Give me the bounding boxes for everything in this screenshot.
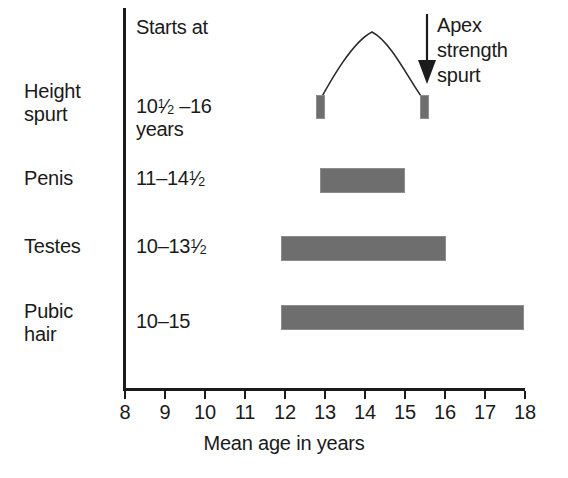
annotation-line-1: Apex [437, 14, 482, 36]
x-axis-tick-14 [364, 391, 366, 399]
bar-penis [320, 168, 405, 193]
apex-strength-spurt-annotation: Apex strength spurt [437, 13, 508, 88]
starts-at-testes-range: 10–131⁄2 [136, 235, 206, 257]
bar-pubic-hair [281, 305, 524, 330]
starts-at-testes: 10–131⁄2 [136, 235, 256, 258]
annotation-line-2: strength [437, 39, 508, 61]
row-label-height-spurt: Height spurt [24, 80, 120, 126]
x-axis-tick-8 [124, 391, 126, 399]
height-spurt-end-marker [420, 95, 429, 119]
x-axis-tick-label-17: 17 [465, 400, 505, 424]
x-axis-tick-15 [404, 391, 406, 399]
starts-at-height-spurt: 101⁄2 –16 years [136, 95, 256, 141]
row-label-penis: Penis [24, 167, 120, 190]
starts-at-pubic-hair-range: 10–15 [136, 310, 190, 332]
x-axis-tick-label-13: 13 [305, 400, 345, 424]
x-axis-tick-label-18: 18 [505, 400, 545, 424]
starts-at-column-header: Starts at [136, 16, 208, 39]
y-axis-line [123, 8, 126, 391]
row-label-pubic-hair-line1: Pubic [24, 300, 73, 322]
x-axis-tick-label-10: 10 [185, 400, 225, 424]
starts-at-penis: 11–141⁄2 [136, 167, 256, 190]
x-axis-tick-11 [244, 391, 246, 399]
starts-at-height-spurt-units: years [136, 118, 183, 140]
height-spurt-start-marker [316, 95, 325, 119]
row-label-pubic-hair: Pubic hair [24, 300, 120, 346]
x-axis-tick-label-8: 8 [105, 400, 145, 424]
x-axis-tick-label-12: 12 [265, 400, 305, 424]
x-axis-tick-label-16: 16 [425, 400, 465, 424]
x-axis-tick-17 [484, 391, 486, 399]
bar-testes [281, 236, 446, 261]
row-label-pubic-hair-line2: hair [24, 323, 57, 345]
row-label-testes-line1: Testes [24, 235, 81, 257]
starts-at-height-spurt-range: 101⁄2 –16 [136, 95, 212, 117]
x-axis-tick-label-14: 14 [345, 400, 385, 424]
x-axis-tick-10 [204, 391, 206, 399]
row-label-height-spurt-line1: Height [24, 80, 81, 102]
x-axis-tick-label-15: 15 [385, 400, 425, 424]
starts-at-penis-range: 11–141⁄2 [136, 167, 205, 189]
x-axis-tick-12 [284, 391, 286, 399]
x-axis-tick-16 [444, 391, 446, 399]
x-axis-tick-18 [524, 391, 526, 399]
row-label-penis-line1: Penis [24, 167, 73, 189]
annotation-line-3: spurt [437, 64, 480, 86]
row-label-height-spurt-line2: spurt [24, 103, 67, 125]
x-axis-title: Mean age in years [0, 432, 568, 455]
puberty-sequence-chart: 8 9 10 11 12 13 14 15 16 17 18 Starts at… [0, 0, 568, 478]
x-axis-tick-label-9: 9 [145, 400, 185, 424]
starts-at-pubic-hair: 10–15 [136, 310, 256, 333]
row-label-testes: Testes [24, 235, 120, 258]
x-axis-tick-13 [324, 391, 326, 399]
x-axis-tick-label-11: 11 [225, 400, 265, 424]
x-axis-tick-9 [164, 391, 166, 399]
